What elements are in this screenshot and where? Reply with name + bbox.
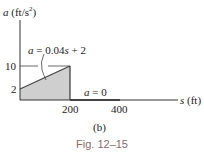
equation-zero: a = 0 bbox=[84, 87, 107, 98]
equation-linear: a = 0.04s + 2 bbox=[28, 45, 86, 56]
figure-caption: Fig. 12–15 bbox=[76, 138, 128, 150]
shaded-area bbox=[20, 66, 70, 100]
y-tick-2: 2 bbox=[11, 84, 17, 95]
x-tick-400: 400 bbox=[111, 104, 128, 115]
y-axis-label: a (ft/s2) bbox=[3, 6, 36, 18]
leader-line bbox=[41, 54, 46, 80]
x-tick-200: 200 bbox=[62, 104, 79, 115]
subfigure-label: (b) bbox=[93, 122, 106, 133]
y-tick-10: 10 bbox=[5, 61, 16, 72]
x-axis-label: s (ft) bbox=[180, 95, 201, 106]
